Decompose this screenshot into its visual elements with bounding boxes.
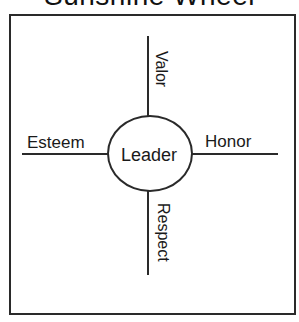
spoke-left-label: Esteem xyxy=(27,134,85,151)
spoke-right-line xyxy=(192,153,278,155)
spoke-left-line xyxy=(22,153,108,155)
spoke-bottom-line xyxy=(147,191,149,275)
spoke-top-line xyxy=(147,36,149,116)
spoke-right-label: Honor xyxy=(205,133,251,150)
spoke-bottom-label: Respect xyxy=(155,203,171,262)
spoke-top-label: Valor xyxy=(153,51,169,87)
center-label: Leader xyxy=(121,146,177,164)
diagram-title: Sunshine Wheel xyxy=(0,0,299,10)
